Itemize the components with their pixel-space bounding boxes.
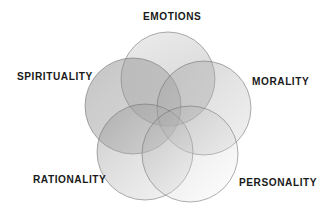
label-morality: MORALITY [252,76,309,87]
label-rationality: RATIONALITY [33,174,106,185]
label-personality: PERSONALITY [239,177,317,188]
circle-personality [142,106,238,202]
label-emotions: EMOTIONS [143,11,201,22]
label-spirituality: SPIRITUALITY [17,71,93,82]
